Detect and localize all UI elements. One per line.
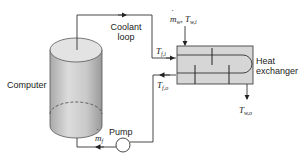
heat-exchanger-box — [177, 46, 253, 84]
water-outlet-temp-subscript: w,o — [244, 110, 252, 116]
water-inlet-symbols: mw, Tw,i — [170, 14, 197, 27]
fluid-inlet-temp-subscript: f,i — [161, 51, 166, 57]
water-outlet-temp: Tw,o — [239, 105, 252, 118]
water-mass-flow-subscript: w — [177, 19, 181, 25]
coolant-loop-label-line1: Coolant — [108, 22, 144, 32]
fluid-outlet-temp-subscript: f,o — [162, 85, 168, 91]
computer-label: Computer — [7, 80, 47, 90]
fluid-mass-flow-symbol: m — [95, 133, 102, 143]
computer-cylinder — [50, 38, 102, 138]
coolant-loop-diagram: Computer Coolant loop Heat exchanger Pum… — [0, 0, 307, 167]
fluid-outlet-temp: Tf,o — [157, 80, 168, 93]
fluid-mass-flow: mf — [95, 133, 103, 146]
water-mass-flow-symbol: m — [170, 14, 177, 24]
pump-icon — [116, 138, 130, 152]
coolant-loop-label-line2: loop — [108, 32, 144, 42]
heat-exchanger-label-line2: exchanger — [256, 66, 298, 76]
fluid-inlet-temp: Tf,i — [156, 46, 166, 59]
water-inlet-temp-subscript: w,i — [190, 19, 197, 25]
coolant-loop-label: Coolant loop — [108, 22, 144, 42]
heat-exchanger-label: Heat exchanger — [256, 56, 298, 76]
heat-exchanger-label-line1: Heat — [256, 56, 298, 66]
pump-label: Pump — [109, 127, 133, 137]
